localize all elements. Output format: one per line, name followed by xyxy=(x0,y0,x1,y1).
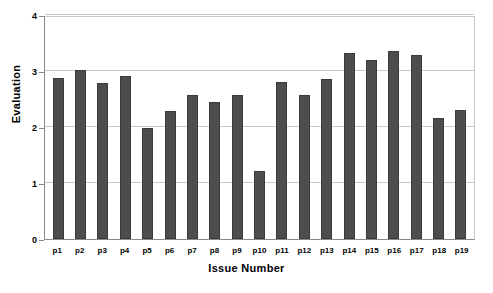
x-axis-tick-label-p8: p8 xyxy=(203,242,225,256)
bar-p4[interactable] xyxy=(120,76,131,239)
bar-slot xyxy=(248,17,270,239)
y-axis: Evaluation 01234 xyxy=(0,0,44,256)
x-axis-title: Issue Number xyxy=(0,262,493,274)
x-axis-tick-label-p5: p5 xyxy=(136,242,158,256)
y-axis-tick-label: 1 xyxy=(32,180,37,189)
y-axis-tick-label: 2 xyxy=(32,124,37,133)
x-axis-tick-label-p19: p19 xyxy=(450,242,472,256)
bar-slot xyxy=(405,17,427,239)
x-axis-tick-labels: p1p2p3p4p5p6p7p8p9p10p11p12p13p14p15p16p… xyxy=(44,242,475,256)
bar-slot xyxy=(338,17,360,239)
bar-slot xyxy=(204,17,226,239)
bar-p13[interactable] xyxy=(321,79,332,239)
x-axis-tick-label-p14: p14 xyxy=(338,242,360,256)
bar-slot xyxy=(92,17,114,239)
bar-slot xyxy=(137,17,159,239)
y-axis-tick-label: 4 xyxy=(32,12,37,21)
bar-slot xyxy=(271,17,293,239)
x-axis-tick-label-p11: p11 xyxy=(271,242,293,256)
bar-p5[interactable] xyxy=(142,128,153,239)
bar-p11[interactable] xyxy=(276,82,287,239)
bar-p7[interactable] xyxy=(187,95,198,239)
bar-p10[interactable] xyxy=(254,171,265,239)
bar-p16[interactable] xyxy=(388,51,399,239)
y-axis-title: Evaluation xyxy=(10,44,22,144)
bar-slot xyxy=(293,17,315,239)
bar-chart: Evaluation 01234 p1p2p3p4p5p6p7p8p9p10p1… xyxy=(0,0,493,293)
bar-slot xyxy=(47,17,69,239)
bar-p1[interactable] xyxy=(53,78,64,239)
x-axis-tick-label-p15: p15 xyxy=(361,242,383,256)
bar-p8[interactable] xyxy=(209,102,220,239)
y-axis-tick-mark xyxy=(39,240,44,241)
x-axis-tick-label-p2: p2 xyxy=(68,242,90,256)
bar-slot xyxy=(114,17,136,239)
bar-slot xyxy=(181,17,203,239)
bar-slot xyxy=(159,17,181,239)
bar-slot xyxy=(226,17,248,239)
bar-slot xyxy=(383,17,405,239)
bar-slot xyxy=(450,17,472,239)
x-axis-tick-label-p16: p16 xyxy=(383,242,405,256)
y-axis-tick-label: 0 xyxy=(32,236,37,245)
bar-p12[interactable] xyxy=(299,95,310,239)
bar-p18[interactable] xyxy=(433,118,444,239)
bar-p17[interactable] xyxy=(411,55,422,239)
bar-slot xyxy=(427,17,449,239)
bar-p15[interactable] xyxy=(366,60,377,239)
bar-slot xyxy=(69,17,91,239)
bar-slot xyxy=(316,17,338,239)
gridline-4 xyxy=(45,14,474,15)
x-axis-tick-label-p18: p18 xyxy=(428,242,450,256)
x-axis-tick-label-p13: p13 xyxy=(316,242,338,256)
x-axis-tick-label-p12: p12 xyxy=(293,242,315,256)
x-axis-tick-label-p10: p10 xyxy=(248,242,270,256)
x-axis-tick-label-p1: p1 xyxy=(46,242,68,256)
bar-p19[interactable] xyxy=(455,110,466,239)
bar-p2[interactable] xyxy=(75,70,86,239)
x-axis-tick-label-p6: p6 xyxy=(158,242,180,256)
bar-p6[interactable] xyxy=(165,111,176,239)
y-axis-tick-label: 3 xyxy=(32,68,37,77)
x-axis-tick-label-p17: p17 xyxy=(406,242,428,256)
bars-container xyxy=(45,17,474,239)
x-axis-tick-label-p3: p3 xyxy=(91,242,113,256)
x-axis-tick-label-p4: p4 xyxy=(113,242,135,256)
x-axis-tick-label-p9: p9 xyxy=(226,242,248,256)
plot-area xyxy=(44,16,475,240)
bar-p3[interactable] xyxy=(97,83,108,239)
x-axis-tick-label-p7: p7 xyxy=(181,242,203,256)
bar-p9[interactable] xyxy=(232,95,243,239)
bar-slot xyxy=(360,17,382,239)
bar-p14[interactable] xyxy=(344,53,355,239)
